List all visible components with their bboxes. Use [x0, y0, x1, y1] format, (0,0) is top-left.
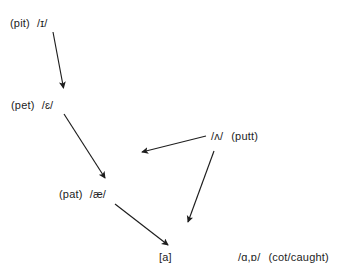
node-phone-cot: /ɑ,ɒ/ — [238, 251, 260, 264]
arrow-putt-to-pat — [142, 136, 206, 152]
node-word-pat: (pat) — [59, 188, 83, 201]
arrow-layer — [0, 0, 345, 279]
node-phone-a: [a] — [159, 251, 172, 264]
node-phone-pit: /ɪ/ — [37, 17, 48, 30]
arrow-putt-to-a — [188, 151, 214, 222]
arrow-pat-to-a — [115, 204, 168, 245]
node-label-putt: /ʌ/(putt) — [211, 130, 258, 143]
node-label-cot: /ɑ,ɒ/(cot/caught) — [238, 251, 329, 264]
arrow-pet-to-pat — [64, 114, 105, 178]
node-phone-putt: /ʌ/ — [211, 130, 223, 143]
node-label-pit: (pit)/ɪ/ — [10, 17, 48, 30]
vowel-shift-diagram: (pit)/ɪ/ (pet)/ɛ/ (pat)/æ/ [a] /ʌ/(putt)… — [0, 0, 345, 279]
arrow-pit-to-pet — [53, 32, 64, 88]
node-label-pet: (pet)/ɛ/ — [11, 99, 53, 112]
node-label-pat: (pat)/æ/ — [59, 188, 106, 201]
node-word-cot: (cot/caught) — [268, 251, 328, 264]
node-phone-pat: /æ/ — [90, 188, 107, 201]
node-label-a: [a] — [159, 251, 172, 264]
node-phone-pet: /ɛ/ — [42, 99, 54, 112]
node-word-putt: (putt) — [231, 130, 258, 143]
node-word-pet: (pet) — [11, 99, 35, 112]
node-word-pit: (pit) — [10, 17, 30, 30]
